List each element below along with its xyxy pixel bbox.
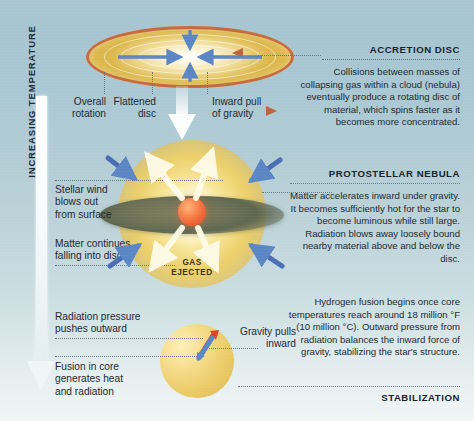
leader-fusion (55, 356, 203, 357)
leader-stellar-wind (55, 180, 223, 181)
rule-stabilization (238, 386, 460, 387)
infall-arrow-icon (168, 86, 196, 140)
label-overall-rotation: Overall rotation (58, 96, 106, 121)
label-inward-pull: Inward pull of gravity (212, 96, 282, 121)
body-protostellar-nebula: Matter accelerates inward under gravity.… (288, 190, 460, 266)
leader-rotation (104, 72, 105, 94)
label-radiation-pressure: Radiation pressure pushes outward (55, 311, 167, 336)
leader-matter-falling (55, 265, 175, 266)
protostar-core (178, 198, 206, 226)
temperature-gradient-bar (36, 96, 47, 364)
rule-accretion-disc (322, 59, 460, 60)
temperature-arrow-icon (27, 361, 55, 391)
rotation-arrow-top-icon (232, 48, 243, 58)
label-gravity-pulls: Gravity pulls inward (228, 326, 296, 351)
accretion-disc-illustration (86, 26, 294, 88)
label-flattened-disc: Flattened disc (110, 96, 156, 121)
heading-stabilization: STABILIZATION (300, 392, 460, 403)
rule-protostellar-nebula (290, 183, 460, 184)
body-stabilization: Hydrogen fusion begins once core tempera… (288, 296, 460, 359)
body-accretion-disc: Collisions between masses of collapsing … (298, 66, 460, 129)
stable-star-illustration (160, 324, 234, 398)
leader-gravity (207, 72, 208, 94)
leader-radiation-pressure (55, 338, 203, 339)
label-matter-falling: Matter continues falling into disc (55, 238, 161, 263)
disc-outline (86, 26, 294, 88)
star-body (160, 324, 234, 398)
label-fusion-core: Fusion in core generates heat and radiat… (55, 361, 159, 398)
leader-flattened (152, 72, 153, 94)
heading-accretion-disc: ACCRETION DISC (300, 44, 460, 55)
label-gas-ejected: GAS EJECTED (162, 258, 222, 278)
temperature-axis-label: INCREASING TEMPERATURE (26, 17, 37, 187)
label-stellar-wind: Stellar wind blows out from surface (55, 184, 151, 221)
leader-accretion-heading (258, 55, 321, 56)
heading-protostellar-nebula: PROTOSTELLAR NEBULA (288, 168, 460, 179)
star-formation-diagram: INCREASING TEMPERATURE Overall rotation … (0, 0, 474, 421)
